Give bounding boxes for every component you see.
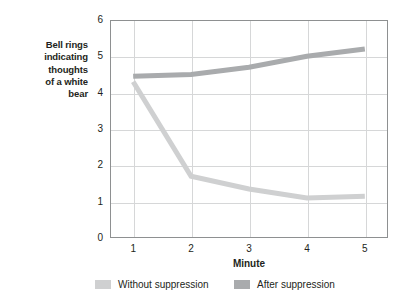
series-line <box>133 49 365 76</box>
line-chart: Bell ringsindicatingthoughtsof a whitebe… <box>0 0 414 305</box>
x-tick-label: 3 <box>234 244 264 254</box>
y-axis-title-line: indicating <box>8 51 88 63</box>
y-tick-label: 6 <box>79 15 103 25</box>
y-tick-label: 3 <box>79 124 103 134</box>
y-axis-title-line: of a white <box>8 76 88 88</box>
legend-swatch <box>95 280 111 289</box>
legend-item[interactable]: Without suppression <box>95 276 209 292</box>
legend-label: After suppression <box>257 279 335 290</box>
y-axis-title-line: thoughts <box>8 64 88 76</box>
legend-label: Without suppression <box>118 279 209 290</box>
y-axis-title-line: bear <box>8 88 88 100</box>
y-tick-label: 2 <box>79 160 103 170</box>
y-tick-label: 5 <box>79 51 103 61</box>
series-line <box>133 82 365 198</box>
y-axis-title: Bell ringsindicatingthoughtsof a whitebe… <box>8 39 88 100</box>
y-tick-label: 1 <box>79 197 103 207</box>
legend-swatch <box>234 280 250 289</box>
series-layer <box>110 20 388 238</box>
y-axis-title-line: Bell rings <box>8 39 88 51</box>
x-axis-title: Minute <box>110 258 388 269</box>
x-tick-label: 5 <box>350 244 380 254</box>
legend: Without suppressionAfter suppression <box>95 276 385 292</box>
y-tick-label: 4 <box>79 88 103 98</box>
y-tick-label: 0 <box>79 233 103 243</box>
x-tick-label: 2 <box>176 244 206 254</box>
x-tick-label: 4 <box>292 244 322 254</box>
legend-item[interactable]: After suppression <box>234 276 335 292</box>
x-tick-label: 1 <box>118 244 148 254</box>
